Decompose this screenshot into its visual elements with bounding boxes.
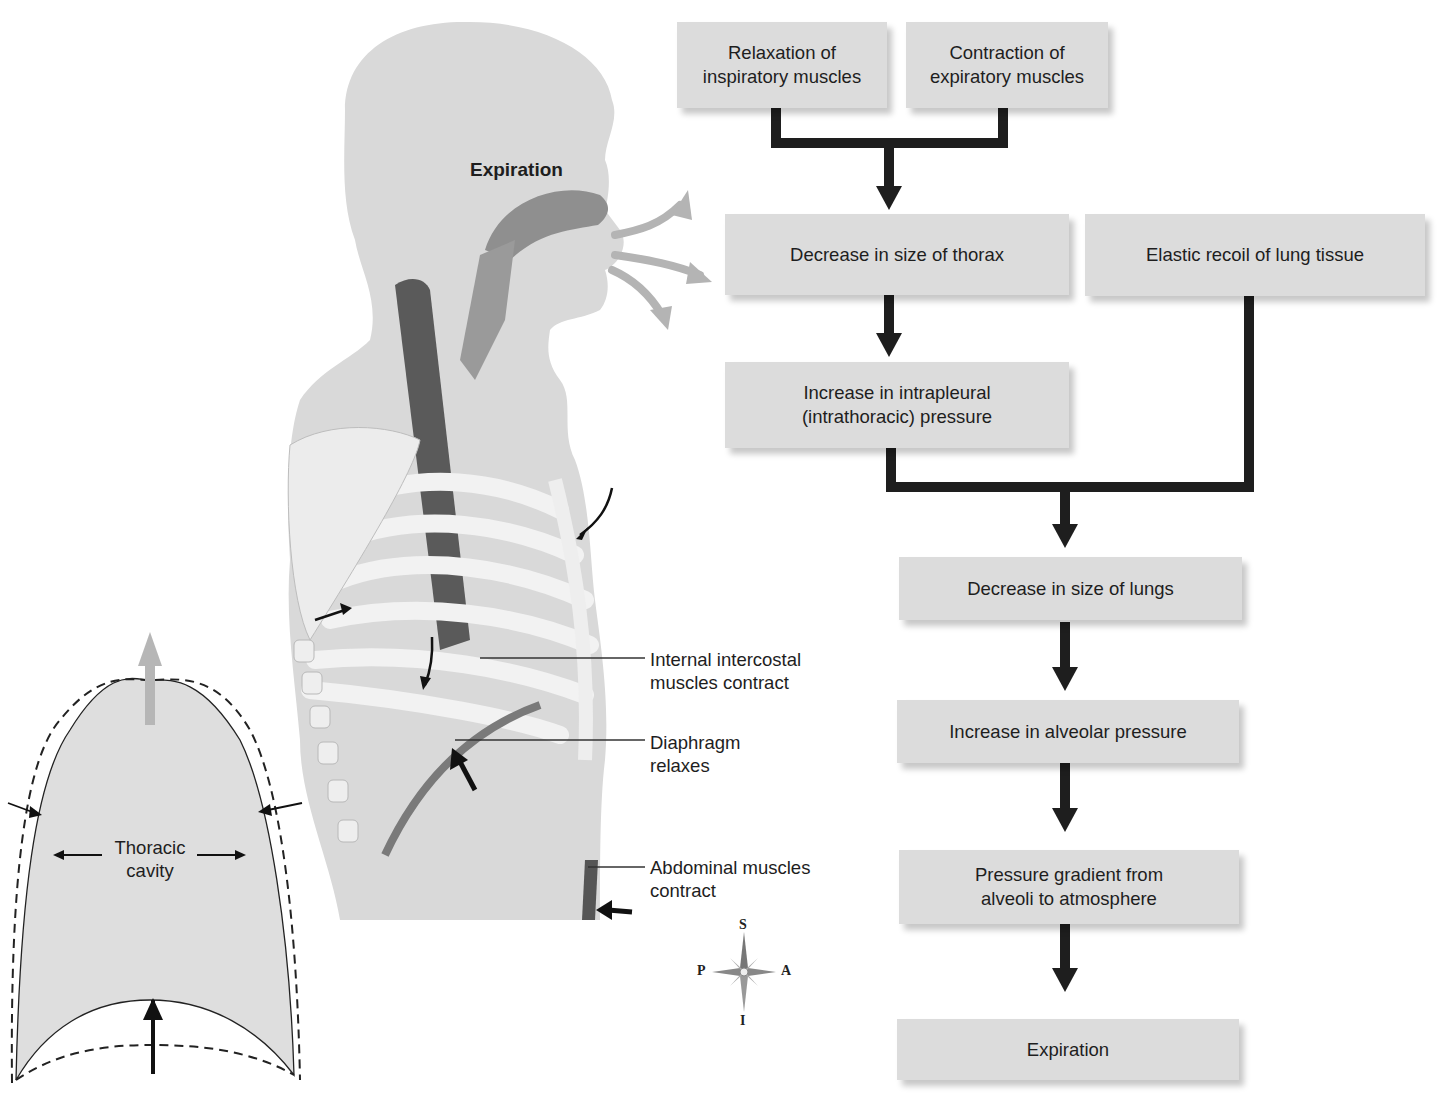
connector	[1060, 482, 1070, 526]
box-elastic-recoil: Elastic recoil of lung tissue	[1085, 214, 1425, 296]
box-text: expiratory muscles	[930, 65, 1084, 89]
connector	[1244, 296, 1254, 492]
compass-anterior: A	[781, 963, 791, 979]
box-decrease-thorax: Decrease in size of thorax	[725, 214, 1069, 295]
box-text: Pressure gradient from	[975, 863, 1163, 887]
label-line: contract	[650, 879, 810, 902]
box-contraction-expiratory: Contraction ofexpiratory muscles	[906, 22, 1108, 108]
box-text: Contraction of	[930, 41, 1084, 65]
box-text: alveoli to atmosphere	[975, 887, 1163, 911]
arrow-down-icon	[1052, 524, 1078, 548]
box-text: Increase in intrapleural	[802, 381, 992, 405]
connector	[1060, 763, 1070, 809]
label-line: Abdominal muscles	[650, 856, 810, 879]
label-line: relaxes	[650, 754, 741, 777]
arrow-down-icon	[1052, 667, 1078, 691]
compass-icon	[712, 932, 776, 1012]
box-increase-intrapleural: Increase in intrapleural(intrathoracic) …	[725, 362, 1069, 448]
box-text: Elastic recoil of lung tissue	[1146, 243, 1364, 267]
floor-up-arrowhead	[143, 998, 163, 1020]
anatomy-illustration	[0, 0, 1442, 1105]
airflow-arrows	[612, 205, 700, 315]
compass-inferior: I	[740, 1013, 745, 1029]
label-line: muscles contract	[650, 671, 801, 694]
compass-posterior: P	[697, 963, 706, 979]
box-increase-alveolar: Increase in alveolar pressure	[897, 700, 1239, 763]
label-line: Thoracic	[100, 836, 200, 859]
connector	[884, 138, 894, 188]
box-text: Increase in alveolar pressure	[949, 720, 1187, 744]
right-in-arrow	[268, 803, 302, 810]
box-text: Expiration	[1027, 1038, 1109, 1062]
box-text: Relaxation of	[703, 41, 861, 65]
label-line: cavity	[100, 859, 200, 882]
connector	[1060, 924, 1070, 970]
connector	[886, 482, 1254, 492]
compass-superior: S	[739, 917, 747, 933]
box-text: Decrease in size of thorax	[790, 243, 1004, 267]
arrow-down-icon	[1052, 968, 1078, 992]
box-text: inspiratory muscles	[703, 65, 861, 89]
label-line: Diaphragm	[650, 731, 741, 754]
upward-gray-arrowhead	[138, 632, 162, 666]
thoracic-cavity-label: Thoracic cavity	[100, 836, 200, 882]
box-expiration: Expiration	[897, 1019, 1239, 1080]
connector	[1060, 622, 1070, 668]
box-pressure-gradient: Pressure gradient fromalveoli to atmosph…	[899, 850, 1239, 924]
arrow-down-icon	[876, 333, 902, 357]
box-text: Decrease in size of lungs	[967, 577, 1174, 601]
arrow-down-icon	[876, 186, 902, 210]
label-line: Internal intercostal	[650, 648, 801, 671]
arrow-down-icon	[1052, 808, 1078, 832]
label-abdominal: Abdominal muscles contract	[650, 856, 810, 902]
connector	[884, 295, 894, 335]
label-internal-intercostal: Internal intercostal muscles contract	[650, 648, 801, 694]
box-relaxation-inspiratory: Relaxation ofinspiratory muscles	[677, 22, 887, 108]
figure-title: Expiration	[470, 158, 563, 181]
label-diaphragm: Diaphragm relaxes	[650, 731, 741, 777]
box-text: (intrathoracic) pressure	[802, 405, 992, 429]
box-decrease-lungs: Decrease in size of lungs	[899, 557, 1242, 620]
